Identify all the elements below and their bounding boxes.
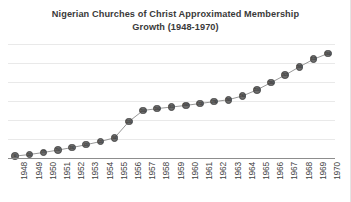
x-tick-label-1950: 1950: [48, 162, 58, 180]
data-point-marker: [54, 146, 62, 154]
chart-title: Nigerian Churches of Christ Approximated…: [18, 8, 333, 34]
data-point-marker: [225, 96, 233, 104]
chart-card: Nigerian Churches of Christ Approximated…: [0, 0, 351, 202]
x-axis-labels: 1948194919501951195219531954195519561957…: [8, 160, 335, 202]
x-tick-label-1970: 1970: [332, 162, 342, 180]
x-tick-label-1961: 1961: [204, 162, 214, 180]
x-tick-label-1962: 1962: [218, 162, 228, 180]
x-tick-label-1968: 1968: [304, 162, 314, 180]
x-tick-label-1957: 1957: [147, 162, 157, 180]
x-tick-label-1952: 1952: [76, 162, 86, 180]
x-tick-label-1959: 1959: [176, 162, 186, 180]
x-tick-label-1954: 1954: [105, 162, 115, 180]
chart-title-line-2: Growth (1948-1970): [18, 21, 333, 34]
data-point-marker: [111, 134, 119, 142]
x-tick-label-1969: 1969: [318, 162, 328, 180]
x-tick-label-1955: 1955: [119, 162, 129, 180]
x-tick-label-1964: 1964: [247, 162, 257, 180]
x-axis-line: [8, 158, 335, 159]
data-point-marker: [139, 107, 147, 115]
plot-area: 6011017525033042052064011501500156016101…: [8, 44, 335, 158]
data-point-marker: [324, 50, 332, 58]
data-point-marker: [281, 71, 289, 79]
x-tick-label-1966: 1966: [275, 162, 285, 180]
data-point-marker: [168, 103, 176, 111]
data-point-marker: [296, 63, 304, 71]
x-tick-label-1949: 1949: [34, 162, 44, 180]
x-tick-label-1951: 1951: [62, 162, 72, 180]
x-tick-label-1965: 1965: [261, 162, 271, 180]
data-point-marker: [253, 86, 261, 94]
data-point-marker: [196, 100, 204, 108]
x-tick-label-1960: 1960: [190, 162, 200, 180]
x-tick-label-1956: 1956: [133, 162, 143, 180]
x-tick-label-1967: 1967: [289, 162, 299, 180]
data-point-marker: [125, 118, 133, 126]
x-tick-label-1953: 1953: [90, 162, 100, 180]
x-tick-label-1963: 1963: [233, 162, 243, 180]
x-tick-label-1958: 1958: [161, 162, 171, 180]
data-point-marker: [239, 92, 247, 100]
data-point-marker: [182, 102, 190, 110]
data-point-marker: [68, 144, 76, 152]
chart-title-line-1: Nigerian Churches of Christ Approximated…: [18, 8, 333, 21]
x-tick-label-1948: 1948: [19, 162, 29, 180]
series-line: [8, 44, 335, 158]
